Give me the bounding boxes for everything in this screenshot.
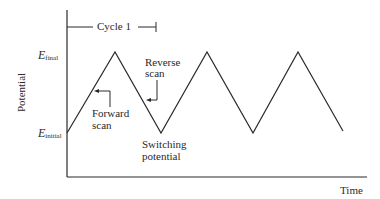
diagram-canvas xyxy=(0,0,380,199)
e-initial-label: Einitial xyxy=(38,126,62,141)
switching-potential-label-line1: Switching xyxy=(142,138,187,150)
forward-scan-arrowhead-icon xyxy=(94,89,99,93)
switching-potential-label-line2: potential xyxy=(142,150,181,162)
e-final-label: Efinal xyxy=(38,48,58,63)
y-axis-label: Potential xyxy=(15,73,27,112)
forward-scan-label-line1: Forward xyxy=(92,107,129,119)
cycle-label: Cycle 1 xyxy=(97,20,131,32)
x-axis-label: Time xyxy=(340,184,363,196)
forward-scan-label-line2: scan xyxy=(92,119,112,131)
reverse-scan-pointer xyxy=(149,80,157,100)
reverse-scan-label-line2: scan xyxy=(145,67,165,79)
reverse-scan-arrowhead-icon xyxy=(146,98,151,102)
forward-scan-pointer xyxy=(97,91,110,107)
